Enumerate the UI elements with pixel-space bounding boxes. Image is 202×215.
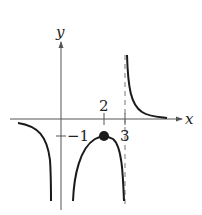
curve-left-branch (18, 123, 51, 201)
curve-right-branch (127, 55, 167, 118)
function-graph: y x 2 3 −1 (0, 0, 202, 215)
x-tick-label-3: 3 (120, 127, 130, 145)
local-max-point (99, 131, 109, 141)
y-tick-label-neg1: −1 (67, 127, 89, 145)
y-axis-label: y (55, 23, 65, 41)
x-axis-label: x (185, 110, 194, 128)
x-tick-label-2: 2 (99, 97, 109, 115)
curve-middle-branch (73, 137, 124, 201)
